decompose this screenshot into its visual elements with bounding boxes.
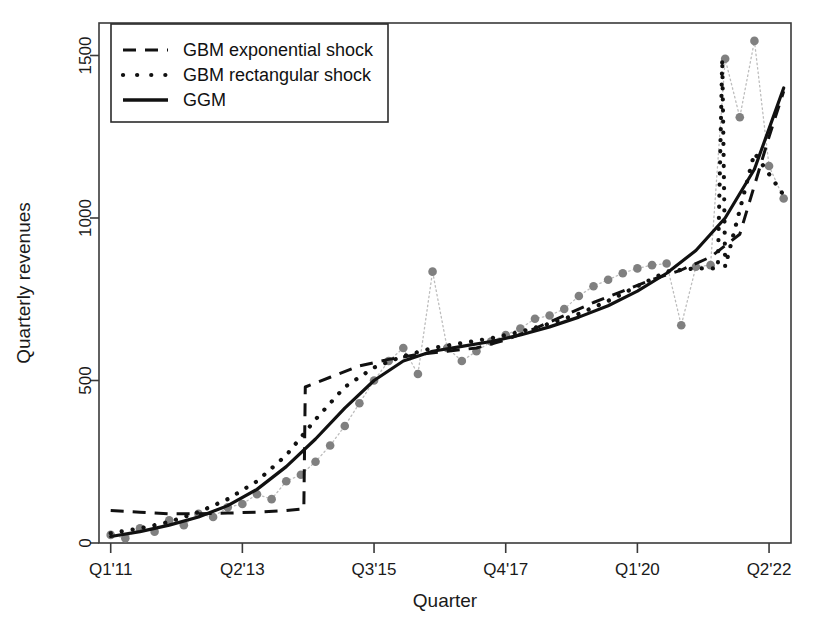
gbm-rectangular-shock-line bbox=[111, 59, 784, 534]
x-tick-label: Q1'11 bbox=[89, 560, 133, 579]
data-point bbox=[779, 194, 788, 203]
chart-figure: 050010001500Q1'11Q2'13Q3'15Q4'17Q1'20Q2'… bbox=[0, 0, 823, 639]
x-tick-label: Q2'13 bbox=[220, 560, 265, 579]
data-point bbox=[282, 477, 291, 486]
data-point bbox=[560, 305, 569, 314]
legend-label-0: GBM exponential shock bbox=[183, 40, 374, 60]
data-point bbox=[326, 441, 335, 450]
data-point bbox=[618, 269, 627, 278]
y-tick-label: 0 bbox=[76, 538, 95, 547]
data-point bbox=[428, 267, 437, 276]
legend-label-2: GGM bbox=[183, 90, 226, 110]
data-point bbox=[267, 495, 276, 504]
data-point bbox=[311, 457, 320, 466]
data-point bbox=[458, 357, 467, 366]
x-tick-label: Q4'17 bbox=[483, 560, 528, 579]
data-point bbox=[516, 324, 525, 333]
data-point bbox=[589, 282, 598, 291]
data-point bbox=[340, 422, 349, 431]
x-tick-label: Q2'22 bbox=[747, 560, 792, 579]
data-point bbox=[575, 292, 584, 301]
data-point bbox=[414, 370, 423, 379]
data-point bbox=[545, 311, 554, 320]
x-tick-label: Q1'20 bbox=[615, 560, 660, 579]
y-tick-label: 500 bbox=[76, 366, 95, 394]
data-point bbox=[648, 261, 657, 270]
data-point bbox=[750, 37, 759, 46]
ggm-fit-line bbox=[111, 88, 784, 537]
x-tick-label: Q3'15 bbox=[352, 560, 397, 579]
gbm-exponential-shock-line bbox=[111, 91, 784, 514]
data-point bbox=[531, 314, 540, 323]
data-point bbox=[662, 259, 671, 268]
x-axis-title: Quarter bbox=[413, 590, 478, 611]
y-tick-label: 1000 bbox=[76, 199, 95, 237]
legend-label-1: GBM rectangular shock bbox=[183, 65, 372, 85]
data-point bbox=[355, 399, 364, 408]
chart-canvas: 050010001500Q1'11Q2'13Q3'15Q4'17Q1'20Q2'… bbox=[0, 0, 823, 639]
y-axis-title: Quarterly revenues bbox=[13, 202, 34, 364]
data-point bbox=[765, 162, 774, 171]
data-point bbox=[677, 321, 686, 330]
y-tick-label: 1500 bbox=[76, 37, 95, 75]
data-point bbox=[399, 344, 408, 353]
data-point bbox=[735, 113, 744, 122]
data-point bbox=[604, 275, 613, 284]
data-point bbox=[633, 264, 642, 273]
